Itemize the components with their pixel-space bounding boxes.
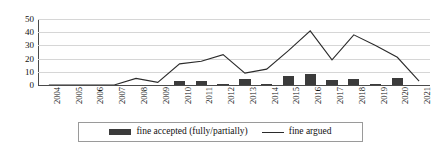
x-tick-label-2020: 2020 (401, 87, 410, 104)
y-tick-label-0: 0 (30, 81, 39, 90)
legend-label-fine-argued: fine argued (289, 127, 332, 137)
line-swatch-icon (262, 132, 284, 133)
legend-item-fine-accepted: fine accepted (fully/partially) (109, 127, 247, 137)
x-tick-label-2009: 2009 (162, 87, 171, 104)
x-tick-label-2007: 2007 (118, 87, 127, 104)
x-tick-label-2016: 2016 (314, 87, 323, 104)
y-tick-label-30: 30 (25, 41, 38, 50)
gridline-0 (38, 85, 430, 86)
y-tick-label-20: 20 (25, 54, 38, 63)
chart-legend: fine accepted (fully/partially) fine arg… (78, 122, 363, 142)
x-tick-label-2018: 2018 (358, 87, 367, 104)
x-tick-label-2006: 2006 (96, 87, 105, 104)
line-series-fine-argued (38, 19, 430, 85)
y-tick-label-40: 40 (25, 28, 38, 37)
legend-item-fine-argued: fine argued (262, 127, 332, 137)
x-axis-category-labels: 2004200520062007200820092010201120122013… (38, 87, 430, 119)
bar-swatch-icon (109, 129, 131, 135)
y-tick-label-10: 10 (25, 67, 38, 76)
x-tick-label-2004: 2004 (53, 87, 62, 104)
legend-label-fine-accepted: fine accepted (fully/partially) (136, 127, 247, 137)
x-tick-label-2013: 2013 (249, 87, 258, 104)
x-tick-label-2014: 2014 (271, 87, 280, 104)
x-tick-label-2012: 2012 (227, 87, 236, 104)
x-tick-label-2017: 2017 (336, 87, 345, 104)
x-tick-label-2015: 2015 (292, 87, 301, 104)
x-tick-label-2008: 2008 (140, 87, 149, 104)
x-tick-label-2021: 2021 (423, 87, 432, 104)
y-tick-label-50: 50 (25, 15, 38, 24)
plot-area (38, 19, 430, 85)
x-tick-label-2010: 2010 (184, 87, 193, 104)
x-tick-label-2011: 2011 (205, 87, 214, 104)
chart-container: 01020304050 2004200520062007200820092010… (0, 0, 440, 149)
x-tick-label-2019: 2019 (380, 87, 389, 104)
x-tick-label-2005: 2005 (75, 87, 84, 104)
